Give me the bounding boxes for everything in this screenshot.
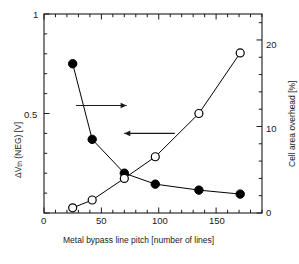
data-point-open-1-1 — [88, 196, 96, 204]
annotation-arrows — [76, 103, 175, 136]
data-point-open-1-4 — [195, 110, 203, 118]
y-axis-right-title: Cell area overhead [%] — [288, 81, 297, 167]
data-point-filled-0-5 — [236, 190, 244, 198]
data-series — [68, 49, 244, 212]
y-axis-left-title-rest: (NEG) [V] — [13, 122, 23, 161]
xtick-label-50: 50 — [96, 216, 107, 226]
ytick-right-label-20: 20 — [266, 40, 277, 50]
data-point-open-1-5 — [236, 49, 244, 57]
ytick-left-label-05: 0.5 — [24, 110, 37, 120]
chart-figure: 0 50 100 150 0.5 1 0 10 20 Metal bypass … — [0, 0, 299, 264]
ytick-right-label-10: 10 — [266, 124, 277, 134]
xtick-label-150: 150 — [209, 216, 225, 226]
arrow-to-left-axis-head — [124, 131, 130, 137]
data-point-filled-0-3 — [151, 180, 159, 188]
y-axis-left-title: ΔVth (NEG) [V] — [14, 122, 24, 178]
arrow-to-right-axis-head — [121, 103, 127, 109]
ytick-right-label-0: 0 — [266, 208, 271, 218]
xtick-label-0: 0 — [41, 216, 46, 226]
data-point-filled-0-4 — [195, 186, 203, 194]
data-point-open-1-2 — [120, 174, 128, 182]
ytick-left-label-1: 1 — [33, 10, 38, 20]
y-axis-left-title-subscript: th — [16, 161, 23, 167]
x-axis-title: Metal bypass line pitch [number of lines… — [63, 236, 214, 245]
data-point-filled-0-1 — [88, 135, 96, 143]
data-point-filled-0-0 — [68, 60, 76, 68]
data-point-open-1-0 — [69, 204, 77, 212]
xtick-label-100: 100 — [152, 216, 168, 226]
data-point-open-1-3 — [151, 153, 159, 161]
y-axis-left-title-delta-v: ΔV — [13, 167, 23, 178]
series-line-0 — [73, 64, 241, 194]
